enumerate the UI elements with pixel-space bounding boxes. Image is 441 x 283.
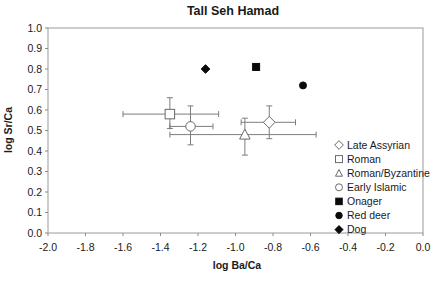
y-axis: 0.00.10.20.30.40.50.60.70.80.91.0 [27,22,48,239]
legend: Late AssyrianRomanRoman/ByzantineEarly I… [335,139,430,236]
scatter-plot: Tall Seh Hamad log Ba/Ca log Sr/Ca -2.0-… [0,0,441,283]
legend-marker-roman [336,156,343,163]
x-tick-label: -0.4 [339,241,357,253]
legend-item-early-islamic: Early Islamic [336,181,407,193]
legend-item-roman: Roman [336,153,382,165]
legend-item-roman-byzantine: Roman/Byzantine [336,167,431,179]
chart-figure: Tall Seh Hamad log Ba/Ca log Sr/Ca -2.0-… [0,0,441,283]
y-axis-label: log Sr/Ca [2,107,14,153]
x-tick-label: -2.0 [39,241,57,253]
legend-label-onager: Onager [347,195,383,207]
legend-marker-red-deer [336,212,343,219]
y-tick-label: 0.5 [27,124,42,136]
data-point-early-islamic [186,122,196,131]
x-tick-label: -1.0 [226,241,244,253]
data-point-dog [201,65,210,74]
y-tick-label: 0.1 [27,206,42,218]
legend-item-late-assyrian: Late Assyrian [335,139,411,151]
y-tick-label: 0.9 [27,42,42,54]
legend-item-dog: Dog [335,223,366,235]
data-point-roman [165,109,175,119]
legend-item-onager: Onager [336,195,383,207]
legend-label-early-islamic: Early Islamic [347,181,407,193]
y-tick-label: 0.3 [27,165,42,177]
x-tick-label: -0.6 [301,241,319,253]
y-tick-label: 0.4 [27,145,42,157]
x-tick-label: -1.8 [76,241,94,253]
x-tick-label: -1.4 [151,241,169,253]
x-tick-label: -0.8 [264,241,282,253]
legend-marker-dog [335,226,343,234]
x-tick-label: -1.6 [114,241,132,253]
data-point-onager [253,63,260,70]
legend-label-dog: Dog [347,223,366,235]
x-tick-label: 0.0 [416,241,431,253]
legend-label-roman-byzantine: Roman/Byzantine [347,167,430,179]
data-point-late-assyrian [263,116,275,128]
y-tick-label: 0.0 [27,227,42,239]
legend-marker-early-islamic [336,184,343,191]
legend-label-late-assyrian: Late Assyrian [347,139,410,151]
legend-label-red-deer: Red deer [347,209,391,221]
data-point-red-deer [300,82,307,89]
y-tick-label: 0.7 [27,83,42,95]
legend-marker-onager [336,198,343,205]
x-tick-label: -0.2 [376,241,394,253]
x-tick-label: -1.2 [189,241,207,253]
legend-label-roman: Roman [347,153,381,165]
y-tick-label: 0.8 [27,63,42,75]
chart-title: Tall Seh Hamad [187,4,279,18]
legend-item-red-deer: Red deer [336,209,391,221]
y-tick-label: 1.0 [27,22,42,34]
error-bars [123,98,316,155]
x-axis: -2.0-1.8-1.6-1.4-1.2-1.0-0.8-0.6-0.4-0.2… [39,233,430,253]
legend-marker-late-assyrian [335,141,344,150]
y-tick-label: 0.2 [27,186,42,198]
data-points [165,63,306,139]
legend-marker-roman-byzantine [336,170,343,177]
y-tick-label: 0.6 [27,104,42,116]
x-axis-label: log Ba/Ca [213,259,262,271]
